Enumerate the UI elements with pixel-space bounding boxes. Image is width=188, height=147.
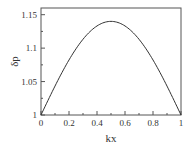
- x-axis-title: kx: [106, 132, 118, 144]
- line-chart: 00.20.40.60.8111.051.11.15kxδp: [0, 0, 188, 147]
- y-axis-title: δp: [8, 56, 20, 67]
- y-tick-label: 1.15: [21, 10, 37, 20]
- plot-frame: [41, 8, 181, 115]
- chart: 00.20.40.60.8111.051.11.15kxδp kx δp: [0, 0, 188, 147]
- x-tick-label: 0.2: [63, 118, 74, 128]
- y-tick-label: 1: [33, 110, 38, 120]
- x-tick-label: 0.4: [91, 118, 103, 128]
- x-tick-label: 1: [179, 118, 184, 128]
- x-tick-label: 0: [39, 118, 44, 128]
- y-tick-label: 1.05: [21, 77, 37, 87]
- series-line: [41, 21, 181, 115]
- x-tick-label: 0.6: [119, 118, 131, 128]
- x-tick-label: 0.8: [147, 118, 159, 128]
- y-tick-label: 1.1: [26, 43, 37, 53]
